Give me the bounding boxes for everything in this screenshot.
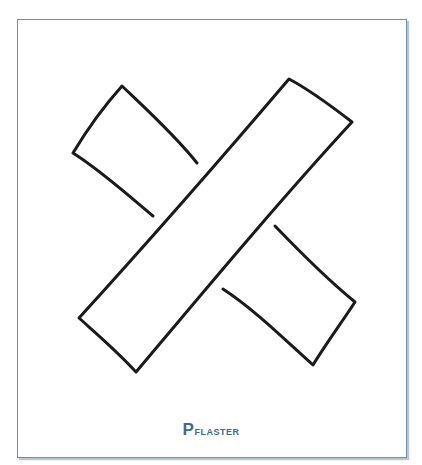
caption-rest: flaster — [194, 423, 239, 438]
caption-initial: P — [183, 420, 195, 439]
caption: Pflaster — [0, 420, 422, 440]
back-strip-upper — [73, 86, 197, 216]
front-strip — [79, 79, 352, 372]
plaster-icon — [0, 0, 422, 465]
